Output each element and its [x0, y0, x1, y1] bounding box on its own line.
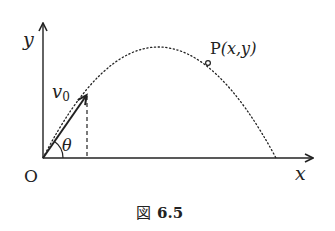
x-axis-label: x [295, 162, 306, 184]
trajectory-curve [43, 47, 276, 158]
projectile-diagram: y x O v0 θ P(x,y) 図6.5 [0, 0, 335, 231]
point-p-label: P(x,y) [210, 39, 256, 58]
figure-caption: 図6.5 [136, 204, 183, 222]
angle-label: θ [62, 136, 72, 155]
y-axis-label: y [22, 28, 34, 50]
point-p-marker [206, 61, 211, 66]
origin-label: O [24, 166, 38, 186]
velocity-label: v0 [52, 81, 70, 104]
